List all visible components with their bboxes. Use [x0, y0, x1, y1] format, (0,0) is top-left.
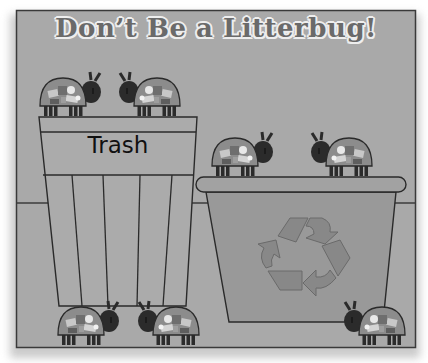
scene — [0, 0, 428, 363]
poster-title: Don’t Be a Litterbug! — [16, 13, 416, 43]
recycling-bin — [196, 177, 406, 322]
trash-label: Trash — [76, 132, 160, 158]
